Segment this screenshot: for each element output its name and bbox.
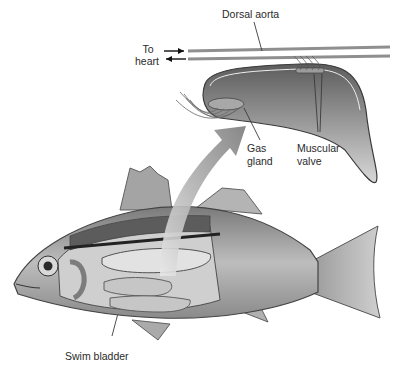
label-swim-bladder: Swim bladder xyxy=(65,350,129,362)
diagram-artwork xyxy=(0,0,398,373)
to-heart-arrows xyxy=(164,48,186,62)
label-gas-gland-line2: gland xyxy=(247,155,273,167)
label-gas-gland-line1: Gas xyxy=(247,142,266,154)
swim-bladder-diagram: Dorsal aorta To heart Gas gland Muscular… xyxy=(0,0,398,373)
label-muscular-valve-line2: valve xyxy=(297,155,322,167)
label-dorsal-aorta: Dorsal aorta xyxy=(222,8,279,20)
label-to-heart-line2: heart xyxy=(130,55,164,67)
label-to-heart-line1: To xyxy=(136,43,160,55)
dorsal-aorta-vessels xyxy=(188,47,390,59)
label-muscular-valve-line1: Muscular xyxy=(297,142,340,154)
